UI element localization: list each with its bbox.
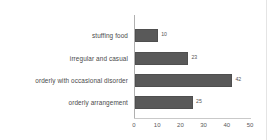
bar-irregular-and-casual[interactable]: [135, 52, 188, 65]
bar-value-label: 10: [161, 32, 167, 37]
x-tick-label: 0: [122, 120, 146, 130]
bar-wrap: 10: [135, 25, 167, 45]
x-tick-label: 50: [238, 120, 262, 130]
bar-wrap: 25: [135, 92, 202, 112]
x-axis-tick-labels: 0 10 20 30 40 50: [0, 120, 266, 132]
bar-orderly-arrangement[interactable]: [135, 96, 193, 109]
bar-row: stuffing food 10: [0, 25, 266, 45]
page-right-border: [266, 0, 267, 140]
bar-wrap: 23: [135, 48, 197, 68]
bar-chart: stuffing food 10 irregular and casual 23…: [0, 0, 273, 140]
category-label-irregular-and-casual: irregular and casual: [2, 48, 132, 68]
bar-value-label: 25: [196, 99, 202, 104]
bar-value-label: 42: [235, 77, 241, 82]
x-tick-label: 10: [145, 120, 169, 130]
category-label-orderly-with-occasional-disorder: orderly with occasional disorder: [2, 70, 132, 90]
bar-row: orderly arrangement 25: [0, 92, 266, 112]
bar-stuffing-food[interactable]: [135, 29, 158, 42]
category-label-stuffing-food: stuffing food: [2, 25, 132, 45]
bar-orderly-with-occasional-disorder[interactable]: [135, 74, 232, 87]
category-label-orderly-arrangement: orderly arrangement: [2, 92, 132, 112]
bar-value-label: 23: [191, 55, 197, 60]
x-tick-label: 30: [192, 120, 216, 130]
plot-area: stuffing food 10 irregular and casual 23…: [0, 0, 266, 140]
bar-row: orderly with occasional disorder 42: [0, 70, 266, 90]
bar-wrap: 42: [135, 70, 241, 90]
bar-row: irregular and casual 23: [0, 48, 266, 68]
x-tick-label: 40: [215, 120, 239, 130]
x-tick-label: 20: [168, 120, 192, 130]
x-axis-line: [134, 118, 251, 119]
